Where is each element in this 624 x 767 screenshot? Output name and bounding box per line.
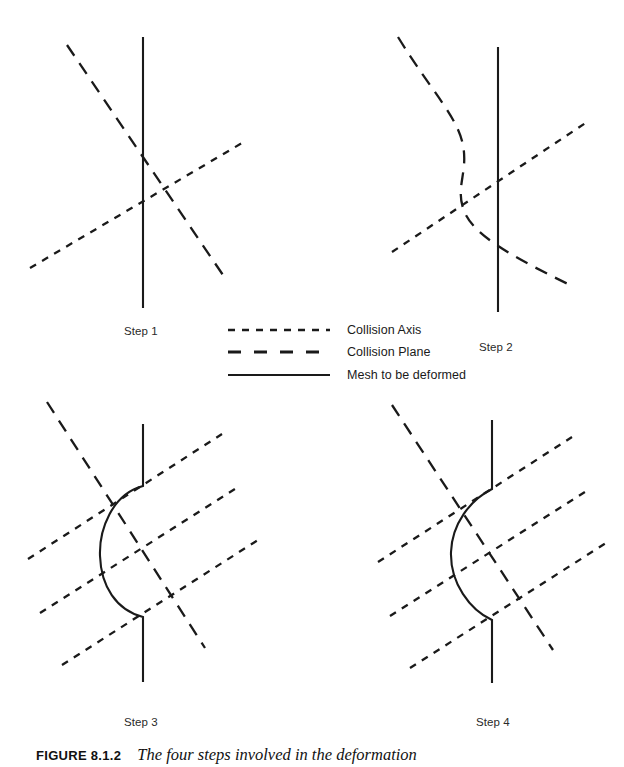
figure-caption: FIGURE 8.1.2The four steps involved in t… <box>36 745 616 765</box>
figure-drawing <box>0 0 624 767</box>
collision-plane-step4 <box>392 405 553 650</box>
collision-plane-step1 <box>67 45 225 278</box>
collision-axis-step2 <box>392 120 590 252</box>
collision-plane-step2 <box>398 37 570 285</box>
legend-label-mesh: Mesh to be deformed <box>347 368 466 382</box>
legend-label-collision-plane: Collision Plane <box>347 345 430 359</box>
panel-step-4 <box>378 405 606 683</box>
step-label-1: Step 1 <box>124 325 158 337</box>
collision-axis-step4-lower <box>410 543 606 668</box>
mesh-line-step4 <box>451 420 492 683</box>
collision-axis-step3-middle <box>40 487 238 613</box>
panel-step-2 <box>392 37 590 312</box>
step-label-4: Step 4 <box>476 716 510 728</box>
panel-step-1 <box>30 37 242 308</box>
collision-plane-step3 <box>47 402 205 648</box>
collision-axis-step4-middle <box>390 490 588 616</box>
panel-step-3 <box>28 402 258 682</box>
step-label-2: Step 2 <box>479 341 513 353</box>
collision-axis-step1 <box>30 143 242 268</box>
figure-container: Step 1 Step 2 Step 3 Step 4 Collision Ax… <box>0 0 624 767</box>
collision-axis-step3-lower <box>62 540 258 665</box>
legend-label-collision-axis: Collision Axis <box>347 323 421 337</box>
figure-caption-number: FIGURE 8.1.2 <box>36 748 121 763</box>
legend-swatches <box>228 330 330 375</box>
collision-axis-step3-upper <box>28 434 222 559</box>
step-label-3: Step 3 <box>124 716 158 728</box>
figure-caption-text: The four steps involved in the deformati… <box>137 745 417 764</box>
mesh-line-step3 <box>100 424 143 682</box>
